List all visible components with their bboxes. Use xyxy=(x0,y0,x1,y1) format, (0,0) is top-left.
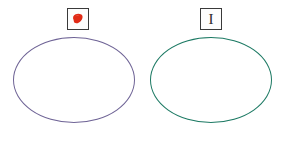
legend-box-i-beam[interactable]: I xyxy=(200,8,222,30)
diagram-canvas: I xyxy=(0,0,285,142)
legend-box-red-blob[interactable] xyxy=(67,8,89,30)
i-beam-icon: I xyxy=(209,12,214,27)
ellipse-purple[interactable] xyxy=(13,37,135,123)
red-blob-icon xyxy=(69,10,87,28)
ellipse-green[interactable] xyxy=(150,37,272,123)
